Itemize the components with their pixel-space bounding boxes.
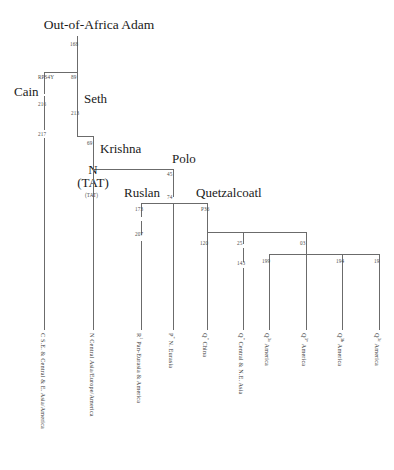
node-cain: Cain [14,85,39,99]
marker-cain-217: 217 [38,131,46,137]
branch-to-leaf-Q3c [379,254,380,330]
leaf-region-text-3: N. Eurasia [168,341,175,369]
phylogenetic-tree-canvas: Out-of-Africa Adam 168 RPS4Y Cain 216 21… [0,0,394,470]
branch-quetz-lower [207,218,208,232]
marker-seth-213: 213 [71,110,79,116]
leaf-region-text-2: Pan-Eurasia & America [136,341,143,403]
marker-quetz-194: 194 [336,258,344,264]
marker-krishna-69: 69 [87,140,92,146]
branch-to-leaf-Q3star [306,254,307,330]
leaf-label-0: C S.E. & Central & E. Asia/America [40,333,47,429]
leaf-region-text-5: Central & N.E. Asia [238,342,245,395]
leaf-haplogroup-7: Q3* [301,333,308,342]
marker-quetz-03: 03 [300,240,305,246]
branch-root-lower [77,50,78,72]
leaf-label-4: Q* China [202,333,210,357]
leaf-haplogroup-9: Q3c [374,333,381,342]
marker-ruslan-173: 173 [135,206,143,212]
branch-quetz-25 [243,232,244,244]
node-polo: Polo [172,152,196,166]
branch-bar-quetz-split [207,232,306,233]
marker-polo-45: 45 [167,171,172,177]
leaf-region-text-1: Central Asia/Europe/America [89,339,96,416]
node-out-of-africa-adam: Out-of-Africa Adam [24,18,174,32]
marker-ruslan-207: 207 [135,231,143,237]
branch-polo-74 [173,183,174,197]
branch-quetz-to-leaf-Q-central [243,268,244,330]
leaf-region-text-4: China [202,342,209,358]
leaf-label-2: R1 Pan-Eurasia & America [136,333,144,403]
leaf-region-text-0: S.E. & Central & E. Asia/America [40,339,47,429]
marker-quetz-199: 199 [262,258,270,264]
leaf-region-text-8: America [337,344,344,366]
branch-cain-216 [44,96,45,130]
branch-quetz-to-leaf-Q-china [207,232,208,330]
leaf-label-8: Q3b America [337,333,345,366]
leaf-region-text-9: America [374,344,381,366]
marker-quetz-p36: P36 [201,206,209,212]
branch-quetz-03-stem [306,232,307,254]
branch-to-leaf-Q3a [269,254,270,330]
marker-quetz-25: 25 [237,240,242,246]
marker-quetz-143: 143 [237,260,245,266]
branch-bar-polo-split [141,203,207,204]
leaf-region-text-6: America [264,344,271,366]
branch-bar-root-split [44,72,78,73]
branch-seth-stem [77,72,78,94]
node-krishna: Krishna [100,142,141,156]
node-ruslan: Ruslan [124,186,160,200]
marker-root-168: 168 [70,41,78,47]
branch-cain-to-leaf-C [44,138,45,330]
branch-seth-drop [77,120,78,136]
node-quetzalcoatl: Quetzalcoatl [196,186,262,200]
marker-polo-74: 74 [167,194,172,200]
marker-quetz-19: 19 [374,258,379,264]
leaf-label-5: Q* Central & N.E. Asia [238,333,246,394]
leaf-haplogroup-4: Q* [202,333,209,340]
leaf-haplogroup-8: Q3b [337,333,344,342]
marker-seth-89: 89 [71,74,76,80]
branch-polo-stem [173,169,174,183]
leaf-haplogroup-6: Q3a [264,333,271,342]
leaf-label-9: Q3c America [374,333,382,366]
node-seth: Seth [84,92,107,106]
leaf-region-text-7: America [301,344,308,366]
branch-seth-213 [77,94,78,120]
leaf-label-7: Q3* America [301,333,309,366]
branch-krishna-stem [93,136,94,150]
leaf-label-6: Q3a America [264,333,272,366]
leaf-label-3: P* N. Eurasia [168,333,176,368]
leaf-label-1: N Central Asia/Europe/America [89,333,96,417]
marker-cain-rps4y: RPS4Y [38,74,54,80]
branch-polo-to-leaf-P [173,203,174,330]
marker-n-tat: (TAT) [85,192,98,198]
branch-seth-to-krishna [77,136,93,137]
branch-bar-q3-split [269,254,379,255]
marker-quetz-120: 120 [200,240,208,246]
branch-to-leaf-Q3b [342,254,343,330]
branch-ruslan-to-leaf-R1 [141,241,142,330]
leaf-haplogroup-5: Q* [238,333,245,340]
